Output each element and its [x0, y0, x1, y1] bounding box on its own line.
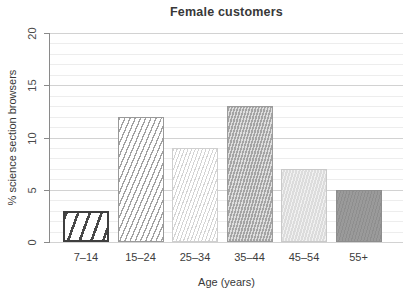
- category-label: 35–44: [223, 251, 277, 263]
- y-axis-line: [49, 33, 50, 243]
- y-tick-label: 10: [27, 126, 38, 152]
- y-axis-tick: [44, 138, 49, 139]
- bar-chart-figure: Female customers % science section brows…: [0, 0, 409, 296]
- major-gridline: [50, 33, 403, 34]
- y-tick-label: 0: [27, 230, 38, 256]
- chart-title: Female customers: [50, 5, 403, 19]
- minor-gridline: [50, 54, 403, 55]
- y-axis-tick: [44, 242, 49, 243]
- minor-gridline: [50, 64, 403, 65]
- y-axis-tick: [44, 85, 49, 86]
- y-axis-label: % science section browsers: [6, 48, 19, 228]
- bar-25–34: [172, 148, 218, 242]
- y-tick-label: 5: [27, 178, 38, 204]
- bar-15–24: [118, 117, 164, 242]
- category-label: 45–54: [277, 251, 331, 263]
- bar-7–14: [63, 211, 109, 242]
- plot-area: 05101520: [50, 33, 403, 242]
- bar-35–44: [227, 106, 273, 242]
- minor-gridline: [50, 75, 403, 76]
- bar-45–54: [281, 169, 327, 242]
- y-tick-label: 20: [27, 21, 38, 47]
- y-tick-label: 15: [27, 73, 38, 99]
- x-axis-label: Age (years): [50, 276, 403, 288]
- category-label: 55+: [332, 251, 386, 263]
- major-gridline: [50, 242, 403, 243]
- category-label: 15–24: [114, 251, 168, 263]
- category-label: 25–34: [168, 251, 222, 263]
- y-axis-tick: [44, 33, 49, 34]
- y-axis-tick: [44, 190, 49, 191]
- bar-55+: [336, 190, 382, 242]
- major-gridline: [50, 85, 403, 86]
- minor-gridline: [50, 43, 403, 44]
- minor-gridline: [50, 96, 403, 97]
- category-label: 7–14: [59, 251, 113, 263]
